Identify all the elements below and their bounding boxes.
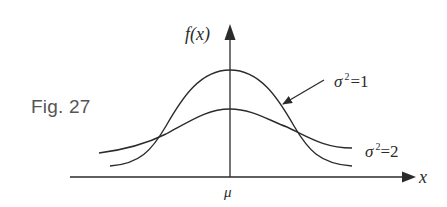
y-axis-label: f(x) xyxy=(185,24,210,45)
label-variance-1-rhs: =1 xyxy=(350,72,368,91)
y-axis-arrow-icon xyxy=(225,24,236,40)
label-variance-2-base: σ xyxy=(365,142,374,161)
label-variance-1-exp: 2 xyxy=(344,71,349,82)
annotation-arrow-icon xyxy=(283,80,324,104)
label-variance-1-base: σ xyxy=(334,72,343,91)
normal-distribution-chart: x μ f(x) σ2=1 σ2=2 xyxy=(0,0,447,207)
label-variance-2: σ2=2 xyxy=(365,141,398,161)
x-axis: x μ xyxy=(70,167,427,200)
curve-variance-2 xyxy=(99,109,352,153)
label-variance-1: σ2=1 xyxy=(334,71,368,91)
y-axis: f(x) xyxy=(185,24,236,177)
x-axis-arrow-icon xyxy=(402,172,416,183)
x-tick-mu: μ xyxy=(223,184,232,200)
label-variance-2-rhs: =2 xyxy=(380,142,398,161)
x-axis-label: x xyxy=(418,167,427,187)
